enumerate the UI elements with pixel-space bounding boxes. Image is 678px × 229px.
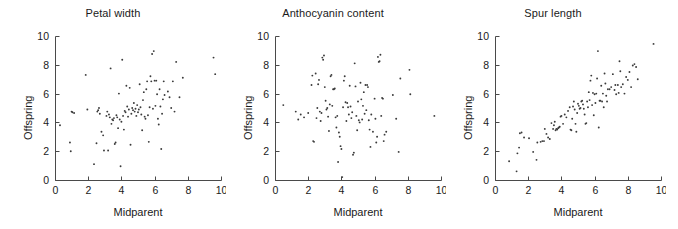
data-point [379,60,381,62]
data-point [346,102,348,104]
data-point [160,148,162,150]
data-point [102,134,104,136]
data-point [544,128,546,130]
data-point [597,50,599,52]
data-point [342,106,344,108]
data-point [564,114,566,116]
data-point [323,54,325,56]
data-point [131,107,133,109]
data-point [385,131,387,133]
data-point [345,120,347,122]
data-point [536,159,538,161]
data-point [365,84,367,86]
data-point [328,130,330,132]
x-tick-label: 2 [526,184,532,196]
data-point [93,163,95,165]
data-point [297,119,299,121]
data-point [559,126,561,128]
data-point [315,72,317,74]
data-point [139,83,141,85]
x-tick-label: 8 [626,184,632,196]
data-point [98,107,100,109]
scatter-panel-2: Anthocyanin content02468100246810Offspri… [220,0,446,229]
data-point [584,114,586,116]
data-point [149,106,151,108]
data-point [619,60,621,62]
data-point [321,57,323,59]
data-point [158,124,160,126]
data-point [565,116,567,118]
data-point [603,106,605,108]
x-tick-label: 4 [339,184,345,196]
data-point [135,108,137,110]
data-point [627,79,629,81]
y-tick-label: 4 [483,116,489,128]
data-point [142,99,144,101]
y-tick-label: 10 [257,30,269,42]
data-point [175,61,177,63]
data-point [318,79,320,81]
data-point [369,129,371,131]
data-point [595,93,597,95]
data-point [550,122,552,124]
data-point [338,132,340,134]
data-point [575,123,577,125]
data-point [123,129,125,131]
x-tick-label: 4 [559,184,565,196]
y-axis-label: Offspring [22,96,34,140]
data-point [383,140,385,142]
data-point [409,69,411,71]
data-point [365,109,367,111]
data-point [324,86,326,88]
data-point [359,121,361,123]
figure-three-scatter-panels: Petal width02468100246810OffspringMidpar… [0,0,678,229]
data-point [375,142,377,144]
data-point [174,111,176,113]
y-tick-label: 4 [43,116,49,128]
data-point [134,111,136,113]
data-point [121,59,123,61]
data-point [282,104,284,106]
data-point [518,147,520,149]
data-point [99,113,101,115]
data-point [140,114,142,116]
data-point [622,83,624,85]
data-point [317,83,319,85]
data-point [140,106,142,108]
data-point [107,150,109,152]
x-tick-label: 8 [406,184,412,196]
data-point [170,107,172,109]
data-point [343,80,345,82]
data-point [71,111,73,113]
data-point [331,105,333,107]
data-point [122,115,124,117]
data-point [311,75,313,77]
axis-spines [276,37,442,181]
data-point [592,92,594,94]
data-point [300,114,302,116]
data-point [585,122,587,124]
data-point [148,141,150,143]
data-point [382,98,384,100]
data-point [587,106,589,108]
data-point [508,160,510,162]
data-point [409,93,411,95]
data-point [329,103,331,105]
data-point [602,93,604,95]
y-tick-label: 2 [43,145,49,157]
data-point [350,106,352,108]
data-point [580,107,582,109]
data-point [106,115,108,117]
data-point [153,50,155,52]
data-point [155,80,157,82]
data-point [347,106,349,108]
data-point [336,115,338,117]
data-point [594,93,596,95]
data-point [330,74,332,76]
data-point [605,95,607,97]
x-axis-label: Midparent [275,206,441,218]
y-axis-label: Offspring [462,96,474,140]
data-point [129,87,131,89]
data-point [361,119,363,121]
data-point [128,108,130,110]
